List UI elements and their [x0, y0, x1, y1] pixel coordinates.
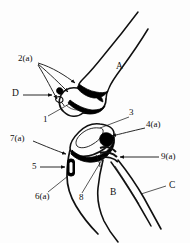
leader-lines-group	[23, 63, 166, 194]
callout-label-7a: 7(a)	[10, 134, 25, 143]
humerus-shaft-right-outline	[106, 29, 148, 99]
radius-shaft-left-outline	[111, 162, 151, 226]
humerus-shaft-left-outline	[79, 12, 138, 84]
leader-4a	[112, 128, 145, 136]
leader-7a	[33, 141, 66, 154]
leader-c	[141, 186, 166, 194]
radius-group	[100, 133, 161, 229]
ulna-shaft-right-outline	[98, 160, 118, 242]
staple-implant-group	[68, 159, 75, 176]
leader-2a-lower	[38, 65, 57, 99]
callout-label-9a: 9(a)	[161, 152, 176, 161]
humerus-trochlea-band	[77, 84, 108, 98]
callout-label-8: 8	[79, 193, 84, 202]
staple-implant-inner	[70, 162, 73, 173]
part-label-d: D	[12, 89, 19, 99]
callout-label-5: 5	[32, 162, 37, 171]
leader-3	[100, 117, 129, 128]
anatomical-figure: A B C D 2(a) 1 3 4(a) 7(a) 9(a) 5 6(a) 8	[0, 0, 190, 243]
callout-label-2a: 2(a)	[18, 54, 33, 63]
elbow-diagram-svg	[0, 0, 190, 243]
fragment-lower-tail	[62, 103, 64, 106]
callout-label-4a: 4(a)	[146, 120, 161, 129]
leader-2a-middle	[38, 64, 68, 92]
callout-label-3: 3	[129, 108, 134, 117]
callout-label-1: 1	[43, 115, 48, 124]
leader-6a	[48, 176, 68, 192]
humerus-group	[59, 12, 148, 116]
radial-head-block	[100, 133, 114, 147]
detached-fragments-group	[56, 88, 64, 106]
fragment-upper-shape	[57, 88, 63, 95]
part-label-a: A	[116, 62, 123, 72]
humerus-capitellum-band	[68, 100, 105, 114]
leader-2a-upper	[38, 63, 75, 83]
radius-shaft-right-outline	[118, 160, 161, 229]
part-label-c: C	[169, 181, 175, 191]
callout-label-6a: 6(a)	[35, 192, 50, 201]
part-label-b: B	[110, 188, 116, 198]
